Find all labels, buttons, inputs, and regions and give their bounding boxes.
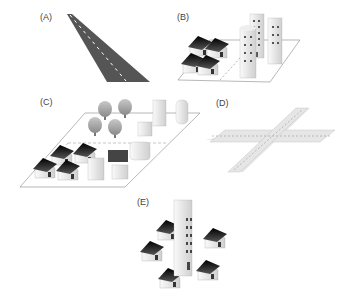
panel-b-illustration — [178, 14, 300, 82]
panel-d-illustration — [205, 108, 335, 172]
panel-c-illustration — [20, 99, 200, 187]
panel-a-road-illustration — [67, 14, 150, 82]
panel-e-illustration — [140, 200, 227, 288]
